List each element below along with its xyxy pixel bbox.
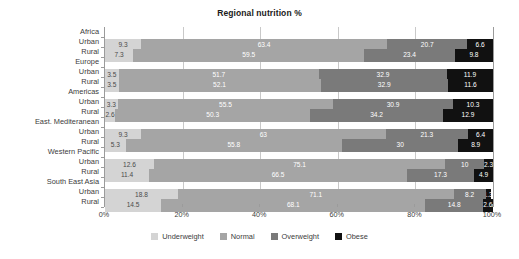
legend-swatch-icon (151, 233, 158, 240)
category-label: Americas (68, 88, 99, 95)
category-label: Western Pacific (48, 148, 99, 155)
bar-value-label: 52.1 (213, 82, 226, 89)
bar-segment-overweight[interactable]: 34.2 (310, 109, 443, 122)
category-label: Urban (79, 188, 99, 195)
chart-title: Regional nutrition % (0, 8, 519, 18)
x-tick-mark (259, 204, 260, 207)
bar-segment-underweight[interactable]: 2.6 (105, 109, 115, 122)
bar-value-label: 50.3 (206, 112, 219, 119)
category-label: Urban (79, 38, 99, 45)
bar-segment-obese[interactable]: 12.9 (443, 109, 493, 122)
x-tick-label: 20% (174, 210, 188, 219)
bar-segment-obese[interactable]: 8.9 (458, 139, 493, 152)
bar-value-label: 66.5 (272, 172, 285, 179)
bar-value-label: 8.9 (471, 142, 480, 149)
category-label: Africa (80, 28, 99, 35)
legend-label: Normal (231, 232, 255, 241)
legend-label: Overweight (282, 232, 319, 241)
chart-legend: UnderweightNormalOverweightObese (0, 232, 519, 241)
bar-segment-normal[interactable]: 59.5 (133, 49, 364, 62)
plot-wrapper: AfricaUrbanRuralEuropeUrbanRuralAmericas… (0, 27, 519, 207)
bar-value-label: 17.3 (434, 172, 447, 179)
bar-value-label: 59.5 (242, 52, 255, 59)
stacked-bar[interactable]: 11.466.517.34.9 (105, 169, 493, 182)
legend-swatch-icon (220, 233, 227, 240)
bar-value-label: 23.4 (403, 52, 416, 59)
legend-item-obese[interactable]: Obese (335, 232, 368, 241)
bar-segment-overweight[interactable]: 23.4 (364, 49, 455, 62)
bar-value-label: 32.9 (378, 82, 391, 89)
x-tick-mark (104, 204, 105, 207)
bar-segment-underweight[interactable]: 3.5 (105, 79, 119, 92)
bar-segment-normal[interactable]: 52.1 (119, 79, 321, 92)
category-label: Rural (81, 168, 99, 175)
gridline-100 (493, 27, 494, 207)
bar-value-label: 5.3 (111, 142, 120, 149)
bar-segment-underweight[interactable]: 7.3 (105, 49, 133, 62)
bar-segment-overweight[interactable]: 30 (342, 139, 458, 152)
category-label: Rural (81, 48, 99, 55)
stacked-bar[interactable]: 7.359.523.49.8 (105, 49, 493, 62)
legend-label: Underweight (162, 232, 204, 241)
bar-segment-obese[interactable]: 4.9 (474, 169, 493, 182)
x-tick-mark (337, 204, 338, 207)
bar-rows: 9.363.420.76.67.359.523.49.83.551.732.91… (105, 27, 493, 207)
bar-value-label: 2.6 (105, 112, 114, 119)
x-tick-mark (414, 204, 415, 207)
bar-value-label: 11.4 (121, 172, 133, 179)
legend-item-overweight[interactable]: Overweight (271, 232, 319, 241)
bar-value-label: 30 (397, 142, 404, 149)
bar-value-label: 12.9 (462, 112, 475, 119)
bar-segment-underweight[interactable]: 11.4 (105, 169, 149, 182)
category-label: Urban (79, 98, 99, 105)
x-tick-mark (182, 204, 183, 207)
x-tick-label: 0% (99, 210, 109, 219)
bar-segment-overweight[interactable]: 17.3 (407, 169, 474, 182)
legend-label: Obese (346, 232, 368, 241)
legend-item-underweight[interactable]: Underweight (151, 232, 204, 241)
category-label: Rural (81, 138, 99, 145)
bar-segment-normal[interactable]: 66.5 (149, 169, 407, 182)
category-label: South East Asia (47, 178, 99, 185)
x-tick-label: 80% (407, 210, 421, 219)
bar-value-label: 34.2 (370, 112, 383, 119)
bar-segment-obese[interactable]: 9.8 (455, 49, 493, 62)
regional-nutrition-chart: Regional nutrition % AfricaUrbanRuralEur… (0, 0, 519, 259)
bar-row: 2.650.334.212.9 (105, 107, 493, 125)
legend-item-normal[interactable]: Normal (220, 232, 255, 241)
bar-value-label: 9.8 (469, 52, 478, 59)
stacked-bar[interactable]: 3.552.132.911.6 (105, 79, 493, 92)
legend-swatch-icon (335, 233, 342, 240)
category-label: Europe (75, 58, 99, 65)
bar-row: 5.355.8308.9 (105, 137, 493, 155)
x-tick-mark (492, 204, 493, 207)
bar-row: 3.552.132.911.6 (105, 77, 493, 95)
x-tick-label: 60% (330, 210, 344, 219)
bar-segment-normal[interactable]: 50.3 (115, 109, 310, 122)
category-label: Rural (81, 78, 99, 85)
legend-swatch-icon (271, 233, 278, 240)
plot-area: 9.363.420.76.67.359.523.49.83.551.732.91… (104, 27, 493, 207)
bar-segment-normal[interactable]: 55.8 (126, 139, 343, 152)
bar-segment-overweight[interactable]: 32.9 (321, 79, 449, 92)
bar-value-label: 7.3 (115, 52, 124, 59)
stacked-bar[interactable]: 5.355.8308.9 (105, 139, 493, 152)
stacked-bar[interactable]: 2.650.334.212.9 (105, 109, 493, 122)
bar-row: 7.359.523.49.8 (105, 47, 493, 65)
category-label: Urban (79, 158, 99, 165)
bar-row: 11.466.517.34.9 (105, 167, 493, 185)
bar-value-label: 4.9 (479, 172, 488, 179)
bar-value-label: 55.8 (227, 142, 240, 149)
category-label: Urban (79, 68, 99, 75)
bar-value-label: 11.6 (464, 82, 476, 89)
category-label: East. Mediteranean (35, 118, 99, 125)
category-label: Rural (81, 108, 99, 115)
x-tick-label: 100% (483, 210, 501, 219)
category-axis: AfricaUrbanRuralEuropeUrbanRuralAmericas… (0, 27, 104, 207)
x-axis: 0%20%40%60%80%100% (104, 207, 492, 223)
category-label: Rural (81, 198, 99, 205)
bar-segment-obese[interactable]: 11.6 (448, 79, 493, 92)
x-tick-label: 40% (252, 210, 266, 219)
bar-segment-underweight[interactable]: 5.3 (105, 139, 126, 152)
category-label: Urban (79, 128, 99, 135)
